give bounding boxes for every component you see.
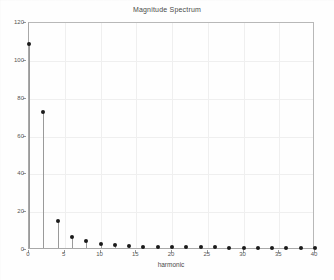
data-point-marker xyxy=(99,242,103,246)
y-axis-tick-label: 100 xyxy=(4,57,24,63)
data-point-marker xyxy=(141,245,145,249)
y-axis-tick-labels: 020406080100120 xyxy=(0,22,26,249)
x-axis-tick-label: 5 xyxy=(62,251,65,257)
x-axis-tick-label: 30 xyxy=(239,251,246,257)
data-point-marker xyxy=(213,245,217,249)
gridline-vertical xyxy=(172,23,173,248)
figure-canvas: Magnitude Spectrum 020406080100120 05101… xyxy=(0,0,334,280)
gridline-horizontal xyxy=(29,99,313,100)
x-axis-tick-label: 10 xyxy=(96,251,103,257)
y-axis-tick-label: 80 xyxy=(4,95,24,101)
x-axis-tick-label: 20 xyxy=(168,251,175,257)
data-point-marker xyxy=(113,243,117,247)
stem-line xyxy=(58,221,59,248)
data-point-marker xyxy=(227,246,231,250)
data-point-marker xyxy=(56,219,60,223)
gridline-vertical xyxy=(244,23,245,248)
x-axis-tick-label: 25 xyxy=(203,251,210,257)
y-axis-tick-label: 120 xyxy=(4,19,24,25)
gridline-horizontal xyxy=(29,137,313,138)
data-point-marker xyxy=(41,110,45,114)
x-axis-tick-label: 40 xyxy=(311,251,318,257)
chart-title: Magnitude Spectrum xyxy=(0,6,334,13)
data-point-marker xyxy=(170,245,174,249)
x-axis-label: harmonic xyxy=(28,261,314,268)
plot-area xyxy=(28,22,314,249)
data-point-marker xyxy=(127,244,131,248)
x-axis-tick-label: 35 xyxy=(275,251,282,257)
y-axis-tick-label: 40 xyxy=(4,170,24,176)
data-point-marker xyxy=(156,245,160,249)
gridline-horizontal xyxy=(29,174,313,175)
data-point-marker xyxy=(27,42,31,46)
stem-line xyxy=(43,112,44,248)
y-axis-tick-label: 0 xyxy=(4,246,24,252)
gridline-horizontal xyxy=(29,212,313,213)
data-point-marker xyxy=(70,235,74,239)
x-axis-tick-label: 15 xyxy=(132,251,139,257)
gridline-vertical xyxy=(101,23,102,248)
gridline-vertical xyxy=(65,23,66,248)
y-axis-tick-label: 60 xyxy=(4,133,24,139)
x-axis-tick-label: 0 xyxy=(26,251,29,257)
gridline-vertical xyxy=(279,23,280,248)
data-point-marker xyxy=(199,245,203,249)
gridline-vertical xyxy=(136,23,137,248)
data-point-marker xyxy=(84,239,88,243)
gridline-vertical xyxy=(208,23,209,248)
gridline-horizontal xyxy=(29,61,313,62)
stem-line xyxy=(29,44,30,248)
y-axis-tick-label: 20 xyxy=(4,208,24,214)
data-point-marker xyxy=(184,245,188,249)
